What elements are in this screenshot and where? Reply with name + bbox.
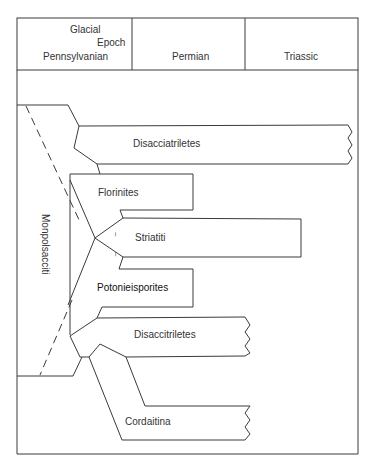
epoch-label: Epoch — [97, 37, 125, 48]
phylogeny-diagram: ~ ~ — [0, 0, 374, 473]
glacial-boundary-dashed — [26, 106, 80, 222]
disaccitriletes-label: Disaccitriletes — [134, 329, 196, 340]
chart-frame — [17, 70, 358, 454]
header-table — [17, 18, 358, 70]
glacial-label: Glacial — [70, 24, 101, 35]
pennsylvanian-connector — [17, 357, 82, 376]
monpolsacciti-stem — [68, 238, 95, 305]
florinites-label: Florinites — [98, 187, 139, 198]
permian-label: Permian — [172, 51, 209, 62]
monpolsacciti-label: Monpolsacciti — [40, 214, 51, 275]
glacial-boundary-dashed-lower — [40, 300, 72, 375]
triassic-label: Triassic — [284, 51, 318, 62]
cordaitina-branch — [89, 357, 250, 440]
potonieisporites-label: Potonieisporites — [97, 282, 168, 293]
uncertainty-mark-lower: ~ — [111, 252, 120, 257]
cordaitina-label: Cordaitina — [125, 416, 171, 427]
disacciatriletes-label: Disacciatriletes — [133, 138, 200, 149]
disacciatriletes-branch — [79, 125, 352, 164]
striatiti-label: Striatiti — [135, 232, 166, 243]
uncertainty-mark-upper: ~ — [111, 232, 120, 237]
pennsylvanian-label: Pennsylvanian — [43, 51, 108, 62]
